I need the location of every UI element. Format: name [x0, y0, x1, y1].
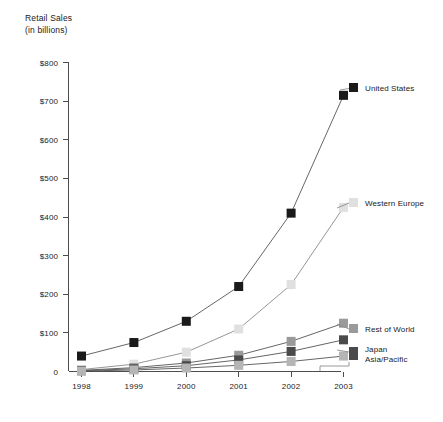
data-point-asia-pacific-1999: [129, 365, 138, 374]
y-tick-200: $200: [40, 290, 59, 299]
series-label-united-states: United States: [365, 84, 414, 93]
line-chart-plot: $800 $700 $600 $500 $400 $300 $200 $100 …: [0, 0, 443, 422]
data-point-asia-pacific-2003: [339, 352, 348, 361]
data-point-western-europe-2000: [182, 348, 191, 357]
y-tick-400: $400: [40, 213, 59, 222]
data-point-united-states-2002: [287, 209, 296, 218]
x-tick-2000: 2000: [177, 382, 196, 391]
x-tick-1999: 1999: [125, 382, 144, 391]
series-label-western-europe: Western Europe: [365, 199, 425, 208]
series-label-asia-pacific: Asia/Pacific: [365, 355, 408, 364]
data-point-japan-2002: [287, 347, 296, 356]
data-point-japan-2003: [339, 335, 348, 344]
series-line-western-europe: [82, 207, 344, 369]
series-marker-united-states: [349, 83, 358, 92]
series-marker-rest-of-world: [349, 324, 358, 333]
series-label-rest-of-world: Rest of World: [365, 325, 415, 334]
series-line-united-states: [82, 95, 344, 356]
data-point-united-states-2000: [182, 317, 191, 326]
y-tick-100: $100: [40, 329, 59, 338]
x-tick-2003: 2003: [334, 382, 353, 391]
data-point-asia-pacific-2002: [287, 357, 296, 366]
series-layer: [77, 91, 348, 376]
y-tick-800: $800: [40, 59, 59, 68]
data-point-rest-of-world-2002: [287, 337, 296, 346]
series-label-japan: Japan: [365, 345, 387, 354]
data-point-united-states-2003: [339, 91, 348, 100]
data-point-asia-pacific-2000: [182, 364, 191, 373]
y-tick-700: $700: [40, 97, 59, 106]
label-leader-lines: [320, 88, 352, 371]
x-axis-ticks: [82, 372, 344, 378]
y-tick-300: $300: [40, 252, 59, 261]
data-point-asia-pacific-2001: [234, 361, 243, 370]
series-marker-western-europe: [349, 198, 358, 207]
data-point-united-states-1999: [129, 338, 138, 347]
data-point-united-states-2001: [234, 282, 243, 291]
x-tick-1998: 1998: [72, 382, 91, 391]
y-axis-ticks: [63, 63, 69, 333]
y-tick-500: $500: [40, 174, 59, 183]
data-point-western-europe-2002: [287, 280, 296, 289]
series-marker-japan-asia-pacific: [349, 347, 358, 360]
y-tick-0: 0: [53, 368, 58, 377]
y-tick-600: $600: [40, 136, 59, 145]
data-point-united-states-1998: [77, 352, 86, 361]
data-point-asia-pacific-1998: [77, 367, 86, 376]
x-tick-2001: 2001: [229, 382, 248, 391]
x-tick-2002: 2002: [282, 382, 301, 391]
series-label-texts: United States Western Europe Rest of Wor…: [365, 84, 425, 364]
series-label-markers: [349, 83, 358, 360]
data-point-western-europe-2001: [234, 325, 243, 334]
leader-line-asia-pacific: [320, 362, 349, 371]
x-axis-tick-labels: 1998 1999 2000 2001 2002 2003: [72, 382, 353, 391]
y-axis-tick-labels: $800 $700 $600 $500 $400 $300 $200 $100 …: [40, 59, 59, 378]
series-line-japan: [82, 340, 344, 371]
chart-root: Retail Sales (in billions) $800 $700 $60…: [0, 0, 443, 422]
series-line-rest-of-world: [82, 323, 344, 370]
